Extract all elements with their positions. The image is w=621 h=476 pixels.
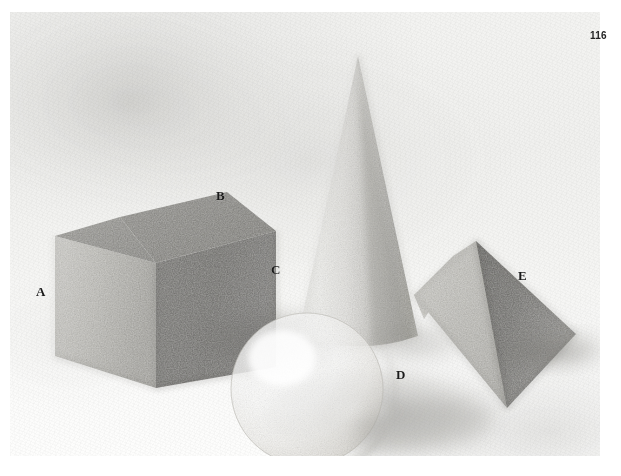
page-number: 116 bbox=[590, 30, 607, 41]
drawing-plate bbox=[10, 12, 600, 456]
label-d: D bbox=[396, 368, 406, 381]
label-b: B bbox=[216, 189, 225, 202]
page-canvas: A B C D E 116 bbox=[0, 0, 621, 476]
label-e: E bbox=[518, 269, 527, 282]
label-a: A bbox=[36, 285, 46, 298]
still-life-drawing bbox=[10, 12, 600, 456]
sphere-highlight bbox=[248, 330, 316, 386]
label-c: C bbox=[271, 263, 281, 276]
